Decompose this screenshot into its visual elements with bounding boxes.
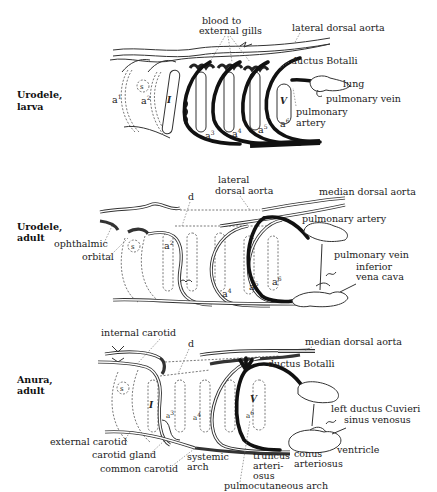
label-pulmocutaneous-arch: pulmocutaneous arch [224, 480, 328, 491]
arch-label-a1: a1 [112, 93, 122, 105]
label-ductus-botalli: ductus Botalli [291, 55, 358, 66]
label-external-carotid: external carotid [50, 436, 127, 447]
gill-slit-3 [224, 72, 234, 132]
label-ventricle: ventricle [336, 444, 380, 455]
label-arteriosus: arteriosus [294, 458, 343, 469]
gill-slit-roman-V: V [250, 394, 258, 404]
lung-shape [298, 382, 339, 403]
label-left-ductus-cuvieri: left ductus Cuvieri [331, 403, 420, 414]
heart-shape [292, 292, 348, 307]
arch-label-a6: a6 [272, 275, 282, 287]
label-median-dorsal-aorta: median dorsal aorta [305, 336, 402, 347]
spiracle-label: s [131, 243, 135, 251]
arch-label-a6: a6 [280, 117, 290, 129]
label-median-dorsal-aorta: median dorsal aorta [319, 186, 416, 197]
label-carotid-gland: carotid gland [92, 449, 156, 460]
label-lateral: lateral [218, 174, 249, 185]
arch-label-a6: a6 [246, 409, 254, 420]
label-pulmonary: pulmonary [296, 106, 348, 117]
lung-shape [304, 223, 347, 242]
gill-slit-roman-I: I [166, 95, 172, 105]
arch-label-a4: a4 [222, 287, 232, 299]
label-orbital: orbital [82, 251, 114, 262]
panel-title-line1: Urodele, [17, 89, 62, 101]
label-internal-carotid: internal carotid [101, 327, 176, 338]
arch-label-a2: a2 [141, 94, 151, 106]
panel-urodele-larva: Urodele, larva s I V [17, 15, 401, 145]
panel-anura-adult: Anura, adult s I [16, 327, 420, 491]
gill-slit-2 [196, 72, 206, 132]
arch-label-a3: a3 [205, 129, 215, 141]
label-ophthalmic: ophthalmic [54, 238, 108, 249]
label-d: d [188, 338, 194, 349]
spiracle-label: s [120, 385, 124, 393]
label-lateral-dorsal-aorta: lateral dorsal aorta [292, 22, 385, 33]
label-common-carotid: common carotid [100, 463, 178, 474]
label-vena-cava: vena cava [355, 271, 404, 282]
spiracle-label: s [140, 83, 144, 91]
label-d: d [188, 191, 194, 202]
arch-label-a5: a5 [258, 123, 268, 135]
arch-label-a3: a3 [166, 409, 174, 420]
panel-urodele-adult: Urodele, adult s [17, 174, 416, 307]
gill-slit-4 [250, 72, 260, 130]
label-external-gills: external gills [199, 25, 262, 36]
label-sinus-venosus: sinus venosus [344, 414, 411, 425]
arch-label-a2: a2 [164, 239, 174, 251]
label-artery: artery [296, 117, 326, 128]
gill-slit-roman-V: V [280, 96, 288, 106]
panel-title-line2: larva [17, 101, 43, 112]
label-ductus-botalli: ductus Botalli [268, 358, 335, 369]
panel-title-line2: adult [17, 232, 45, 243]
label-pulmonary-artery: pulmonary artery [302, 213, 387, 224]
gill-slit-roman-I: I [148, 400, 154, 410]
aortic-arches-diagram: Urodele, larva s I V [0, 0, 437, 492]
arch-label-a4: a4 [193, 411, 201, 422]
label-lung: lung [343, 78, 364, 89]
arch-label-a4: a4 [232, 127, 242, 139]
label-dorsal-aorta: dorsal aorta [215, 185, 274, 196]
panel-title-line2: adult [17, 385, 45, 396]
label-pulmonary-vein: pulmonary vein [334, 249, 409, 260]
label-arch: arch [187, 461, 209, 472]
label-pulmonary-vein: pulmonary vein [326, 93, 401, 104]
